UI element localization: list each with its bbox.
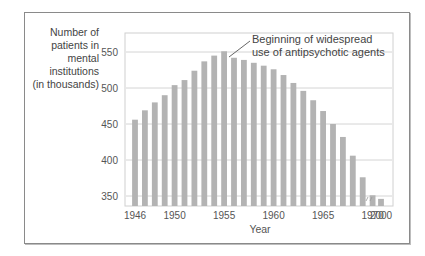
- bar-chart: 350400450500550 194619501955196019651970…: [0, 0, 425, 256]
- bar-1968: [350, 156, 356, 206]
- bar-1948: [152, 102, 158, 206]
- x-tick-label-1960: 1960: [262, 210, 285, 221]
- bar-1954: [211, 56, 217, 206]
- x-axis-title: Year: [249, 223, 271, 235]
- annotation-line-1: Beginning of widespread: [252, 33, 372, 45]
- bar-1956: [231, 58, 237, 206]
- x-tick-label-2000: 2000: [370, 210, 393, 221]
- bar-1949: [162, 95, 168, 206]
- bar-1962: [291, 83, 297, 206]
- annotation-line-2: use of antipsychotic agents: [252, 46, 385, 58]
- bar-1969: [360, 177, 366, 206]
- bar-1961: [281, 75, 287, 206]
- bar-1959: [261, 66, 267, 206]
- bar-1960: [271, 69, 277, 206]
- x-tick-label-1950: 1950: [163, 210, 186, 221]
- y-tick-label: 550: [101, 47, 118, 58]
- y-tick-label: 500: [101, 83, 118, 94]
- x-tick-label-1965: 1965: [312, 210, 335, 221]
- y-tick-label: 450: [101, 119, 118, 130]
- y-tick-label: 350: [101, 191, 118, 202]
- bar-1966: [330, 124, 336, 206]
- bar-2000: [378, 199, 384, 206]
- bar-1947: [142, 110, 148, 206]
- x-tick-label-1946: 1946: [124, 210, 147, 221]
- x-tick-label-1955: 1955: [213, 210, 236, 221]
- bar-1957: [241, 60, 247, 206]
- bar-1946: [132, 120, 138, 206]
- bar-1963: [300, 91, 306, 206]
- bar-1950: [172, 85, 178, 206]
- bar-1953: [201, 61, 207, 206]
- bar-1964: [310, 100, 316, 206]
- bar-1952: [192, 71, 198, 206]
- bar-1967: [340, 137, 346, 206]
- bar-1955: [221, 51, 227, 206]
- y-tick-label: 400: [101, 155, 118, 166]
- bar-1958: [251, 63, 257, 206]
- bar-1965: [320, 111, 326, 206]
- bar-1951: [182, 80, 188, 206]
